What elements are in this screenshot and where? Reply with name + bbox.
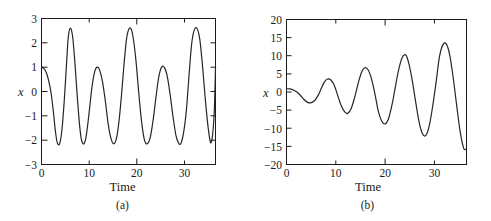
panel-b: −20−15−10−505101520 0102030 x Time (b) <box>245 0 490 221</box>
plot-b-xticklabels: 0102030 <box>284 167 441 179</box>
ytick-label: 2 <box>31 37 37 49</box>
plot-b-caption: (b) <box>245 199 490 211</box>
ytick-label: −5 <box>270 104 282 116</box>
ytick-label: −15 <box>264 141 282 153</box>
ytick-label: 5 <box>276 68 282 80</box>
ytick-label: 3 <box>31 13 37 25</box>
plot-b-ylabel: x <box>263 86 269 101</box>
plot-a-ylabel: x <box>18 85 24 100</box>
xtick-label: 0 <box>284 167 290 179</box>
plot-a-yticklabels: −3−2−10123 <box>25 13 38 171</box>
xtick-label: 10 <box>330 167 342 179</box>
xtick-label: 20 <box>131 167 143 179</box>
xtick-label: 0 <box>39 167 45 179</box>
ytick-label: 15 <box>271 32 283 44</box>
ytick-label: 20 <box>271 14 283 26</box>
ytick-label: 1 <box>31 61 37 73</box>
xtick-label: 30 <box>429 167 441 179</box>
figure-two-panel: −3−2−10123 0102030 x Time (a) <box>0 0 491 221</box>
ytick-label: 0 <box>31 86 37 98</box>
ytick-label: −1 <box>25 110 37 122</box>
ytick-label: −20 <box>264 159 282 171</box>
ytick-label: −10 <box>264 123 282 135</box>
ytick-label: 10 <box>271 50 283 62</box>
ytick-label: −3 <box>25 159 37 171</box>
xtick-label: 30 <box>179 167 191 179</box>
ytick-label: −2 <box>25 134 37 146</box>
ytick-label: 0 <box>276 86 282 98</box>
plot-a-caption: (a) <box>0 199 245 211</box>
xtick-label: 10 <box>83 167 95 179</box>
plot-a-xticklabels: 0102030 <box>39 167 191 179</box>
plot-a-xlabel: Time <box>0 180 245 195</box>
xtick-label: 20 <box>379 167 391 179</box>
plot-b-xlabel: Time <box>245 180 491 195</box>
panel-a: −3−2−10123 0102030 x Time (a) <box>0 0 245 221</box>
plot-b-frame <box>287 20 467 165</box>
